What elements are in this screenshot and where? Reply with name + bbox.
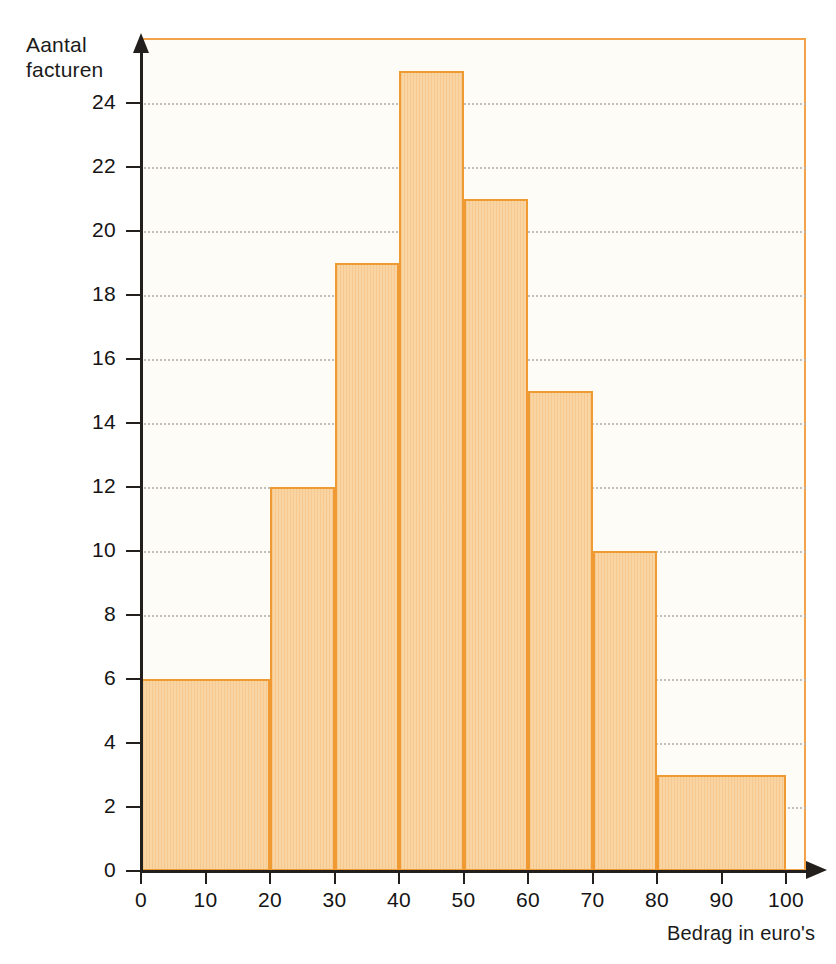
x-axis-tick-label: 10 (176, 888, 236, 912)
x-axis-line (141, 870, 809, 873)
x-axis-tick-label: 80 (627, 888, 687, 912)
histogram-bar (528, 391, 593, 871)
x-axis-title: Bedrag in euro's (667, 922, 815, 945)
histogram-bar (270, 487, 335, 871)
histogram-bar (141, 679, 270, 871)
histogram-bar (464, 199, 529, 871)
y-axis-tick-label: 4 (62, 730, 116, 754)
histogram-figure: Aantal facturen 024681012141618202224 01… (0, 0, 836, 964)
y-axis-tick-label: 20 (62, 218, 116, 242)
x-axis-tick-label: 60 (498, 888, 558, 912)
y-axis-arrow-icon (133, 33, 149, 53)
y-axis-tick-label: 8 (62, 602, 116, 626)
histogram-bar (399, 71, 464, 871)
gridline (141, 167, 806, 169)
y-axis-tick-label: 2 (62, 794, 116, 818)
histogram-bar (593, 551, 658, 871)
x-axis-tick-label: 70 (563, 888, 623, 912)
gridline (141, 103, 806, 105)
x-axis-tick-label: 0 (111, 888, 171, 912)
y-axis-tick-label: 12 (62, 474, 116, 498)
x-axis-tick-label: 20 (240, 888, 300, 912)
y-axis-line (140, 48, 143, 873)
y-axis-tick-label: 16 (62, 346, 116, 370)
histogram-bar (657, 775, 786, 871)
x-axis-tick-label: 100 (756, 888, 816, 912)
y-axis-tick-label: 6 (62, 666, 116, 690)
y-axis-tick-label: 14 (62, 410, 116, 434)
x-axis-arrow-icon (806, 861, 827, 879)
y-axis-tick-label: 22 (62, 154, 116, 178)
x-axis-tick-label: 40 (369, 888, 429, 912)
y-axis-tick-label: 10 (62, 538, 116, 562)
x-axis-tick-label: 30 (305, 888, 365, 912)
histogram-bar (335, 263, 400, 871)
y-axis-tick-label: 18 (62, 282, 116, 306)
y-axis-tick-label: 0 (62, 858, 116, 882)
y-axis-tick-label: 24 (62, 90, 116, 114)
x-axis-tick-label: 90 (692, 888, 752, 912)
x-axis-tick-label: 50 (434, 888, 494, 912)
y-axis-title: Aantal facturen (26, 32, 103, 82)
